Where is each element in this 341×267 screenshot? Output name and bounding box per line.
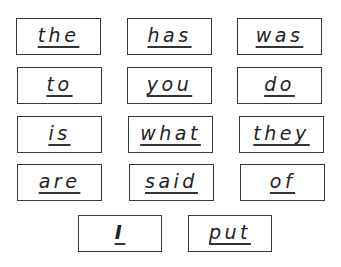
word-text: put xyxy=(209,223,251,242)
word-text: what xyxy=(140,124,201,143)
word-text: are xyxy=(39,172,81,191)
word-card: what xyxy=(128,116,213,153)
word-card: is xyxy=(17,116,102,153)
word-text: said xyxy=(145,172,198,191)
word-text: to xyxy=(46,75,72,94)
word-text: they xyxy=(253,124,309,143)
word-text: the xyxy=(38,26,80,45)
word-card: the xyxy=(16,18,101,55)
word-card: has xyxy=(127,18,212,55)
word-card: said xyxy=(129,164,214,201)
word-card: you xyxy=(127,67,212,104)
word-text: of xyxy=(270,172,295,191)
word-text: was xyxy=(256,26,304,45)
word-card: are xyxy=(17,164,102,201)
word-text: has xyxy=(147,26,191,45)
word-text: is xyxy=(48,124,70,143)
word-card: was xyxy=(237,18,322,55)
word-card: they xyxy=(239,116,324,153)
word-card: of xyxy=(240,164,325,201)
word-card: to xyxy=(17,67,102,104)
word-card: I xyxy=(78,215,162,252)
word-card: do xyxy=(237,67,322,104)
word-text: you xyxy=(147,75,192,94)
word-text: do xyxy=(264,75,295,94)
word-text: I xyxy=(115,223,126,242)
word-card: put xyxy=(188,215,272,252)
